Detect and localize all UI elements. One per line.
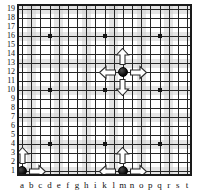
column-label-b: b bbox=[29, 180, 34, 190]
column-label-e: e bbox=[57, 180, 61, 190]
row-label-10: 10 bbox=[7, 86, 15, 94]
column-label-c: c bbox=[38, 180, 42, 190]
column-label-h: h bbox=[84, 180, 89, 190]
column-label-f: f bbox=[66, 180, 69, 190]
row-label-4: 4 bbox=[11, 140, 15, 148]
row-label-11: 11 bbox=[7, 77, 15, 85]
star-point bbox=[103, 88, 107, 92]
grid-line-horizontal bbox=[19, 54, 190, 55]
column-label-p: p bbox=[148, 180, 153, 190]
row-label-7: 7 bbox=[11, 113, 15, 121]
star-point bbox=[48, 34, 52, 38]
column-label-q: q bbox=[157, 180, 162, 190]
grid-line-horizontal bbox=[19, 153, 190, 154]
row-label-13: 13 bbox=[7, 59, 15, 67]
go-board-grid bbox=[19, 6, 190, 174]
grid-line-horizontal bbox=[19, 18, 190, 19]
grid-line-horizontal bbox=[19, 45, 190, 46]
go-stone-m1[interactable] bbox=[118, 166, 128, 174]
row-label-5: 5 bbox=[11, 131, 15, 139]
row-label-17: 17 bbox=[7, 23, 15, 31]
row-label-14: 14 bbox=[7, 50, 15, 58]
row-label-6: 6 bbox=[11, 122, 15, 130]
star-point bbox=[158, 88, 162, 92]
grid-line-horizontal bbox=[19, 117, 190, 118]
grid-line-horizontal bbox=[19, 27, 190, 28]
star-point bbox=[103, 34, 107, 38]
grid-line-horizontal bbox=[19, 72, 190, 73]
row-label-axis: 19181716151413121110987654321 bbox=[0, 4, 16, 176]
column-label-i: i bbox=[94, 180, 97, 190]
row-label-12: 12 bbox=[7, 68, 15, 76]
go-diagram-root: 19181716151413121110987654321 abcdefghik… bbox=[0, 0, 197, 196]
star-point bbox=[158, 34, 162, 38]
row-label-3: 3 bbox=[11, 149, 15, 157]
column-label-d: d bbox=[47, 180, 52, 190]
row-label-19: 19 bbox=[7, 5, 15, 13]
go-stone-a1[interactable] bbox=[19, 166, 27, 174]
column-label-a: a bbox=[20, 180, 24, 190]
column-label-n: n bbox=[130, 180, 135, 190]
row-label-18: 18 bbox=[7, 14, 15, 22]
row-label-16: 16 bbox=[7, 32, 15, 40]
grid-line-horizontal bbox=[19, 9, 190, 10]
column-label-g: g bbox=[75, 180, 80, 190]
go-board[interactable] bbox=[17, 4, 192, 176]
row-label-9: 9 bbox=[11, 95, 15, 103]
grid-line-horizontal bbox=[19, 162, 190, 163]
grid-line-horizontal bbox=[19, 171, 190, 172]
grid-line-horizontal bbox=[19, 126, 190, 127]
row-label-15: 15 bbox=[7, 41, 15, 49]
star-point bbox=[158, 142, 162, 146]
column-label-r: r bbox=[167, 180, 170, 190]
star-point bbox=[48, 88, 52, 92]
grid-line-horizontal bbox=[19, 135, 190, 136]
star-point bbox=[103, 142, 107, 146]
column-label-l: l bbox=[112, 180, 115, 190]
grid-line-horizontal bbox=[19, 108, 190, 109]
column-label-s: s bbox=[176, 180, 180, 190]
grid-line-horizontal bbox=[19, 63, 190, 64]
grid-line-horizontal bbox=[19, 99, 190, 100]
go-stone-m12[interactable] bbox=[118, 67, 128, 77]
star-point bbox=[48, 142, 52, 146]
grid-line-horizontal bbox=[19, 81, 190, 82]
column-label-t: t bbox=[186, 180, 189, 190]
row-label-2: 2 bbox=[11, 158, 15, 166]
column-label-axis: abcdefghiklmnopqrst bbox=[17, 178, 192, 192]
column-label-o: o bbox=[139, 180, 144, 190]
row-label-1: 1 bbox=[11, 167, 15, 175]
row-label-8: 8 bbox=[11, 104, 15, 112]
column-label-m: m bbox=[119, 180, 126, 190]
column-label-k: k bbox=[102, 180, 107, 190]
